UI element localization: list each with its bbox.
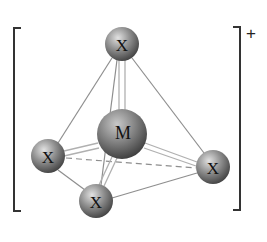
central-atom-label: M — [115, 123, 131, 143]
left-bracket — [14, 28, 21, 211]
ligand-atom-left: X — [31, 139, 65, 173]
ligand-label: X — [42, 148, 54, 167]
edge-bottom-right — [112, 173, 197, 198]
ligand-label: X — [207, 159, 219, 178]
tetrahedral-complex-diagram: X M X X X — [0, 0, 267, 242]
ligand-atom-top: X — [105, 27, 139, 61]
edge-left-bottom — [58, 170, 85, 190]
right-bracket — [233, 27, 240, 210]
ion-charge: + — [246, 24, 256, 44]
ligand-atom-right: X — [196, 150, 230, 184]
ligand-label: X — [116, 36, 128, 55]
central-atom-m: M — [97, 109, 147, 159]
ligand-atom-bottom: X — [79, 184, 113, 218]
ligand-label: X — [90, 193, 102, 212]
